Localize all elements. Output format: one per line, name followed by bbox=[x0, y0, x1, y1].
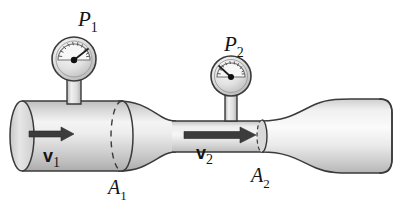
label-pressure-1: P1 bbox=[77, 7, 98, 35]
label-area-2-subscript: 2 bbox=[263, 176, 270, 191]
label-area-1: A1 bbox=[106, 176, 127, 203]
label-pressure-1-symbol: P bbox=[77, 7, 91, 31]
pressure-gauge-2 bbox=[211, 56, 251, 121]
label-area-2-symbol: A bbox=[249, 164, 264, 186]
label-velocity-1-subscript: 1 bbox=[53, 155, 60, 170]
gauge-2-pivot bbox=[228, 74, 234, 80]
label-area-2: A2 bbox=[249, 164, 270, 191]
label-area-1-subscript: 1 bbox=[120, 188, 127, 203]
label-velocity-2-symbol: v bbox=[196, 143, 206, 163]
pipe-taper bbox=[118, 101, 176, 171]
venturi-diagram-canvas: P1 P2 v1 v2 A1 A2 bbox=[0, 0, 406, 215]
venturi-tube-figure: P1 P2 v1 v2 A1 A2 bbox=[0, 0, 406, 215]
label-velocity-2-subscript: 2 bbox=[206, 152, 213, 167]
pipe-flare-right bbox=[262, 99, 392, 173]
pressure-gauge-1 bbox=[52, 37, 96, 104]
label-pressure-2: P2 bbox=[223, 32, 244, 60]
label-pressure-2-symbol: P bbox=[223, 32, 237, 56]
cross-section-a2 bbox=[257, 120, 267, 152]
label-pressure-1-subscript: 1 bbox=[91, 20, 98, 35]
gauge-1-pivot bbox=[71, 57, 77, 63]
label-velocity-1-symbol: v bbox=[43, 146, 53, 166]
label-area-1-symbol: A bbox=[106, 176, 121, 198]
label-pressure-2-subscript: 2 bbox=[237, 45, 244, 60]
